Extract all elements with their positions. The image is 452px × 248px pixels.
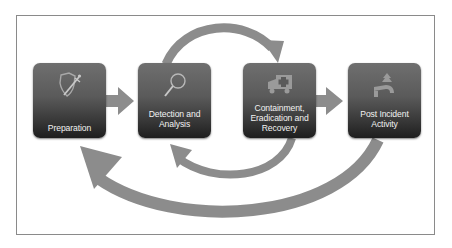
arrow-contain-to-post [316,87,343,115]
arrow-detect-to-contain [166,28,272,64]
phase-post-incident: Post Incident Activity [348,63,421,138]
arrow-contain-to-detect [178,138,292,175]
phase-containment: Containment, Eradication and Recovery [243,63,316,138]
phase-label: Preparation [33,123,106,133]
phase-label: Containment, Eradication and Recovery [243,103,316,133]
arrow-prep-to-detect [106,87,134,115]
phase-preparation: Preparation [33,63,106,138]
phase-label: Post Incident Activity [348,109,421,129]
arrowhead-top [262,40,284,63]
ambulance-icon [265,71,295,99]
shield-sword-icon [55,71,85,99]
phase-detection: Detection and Analysis [138,63,211,138]
road-tree-icon [370,71,400,99]
phase-label: Detection and Analysis [138,109,211,129]
magnifier-icon [160,71,190,99]
